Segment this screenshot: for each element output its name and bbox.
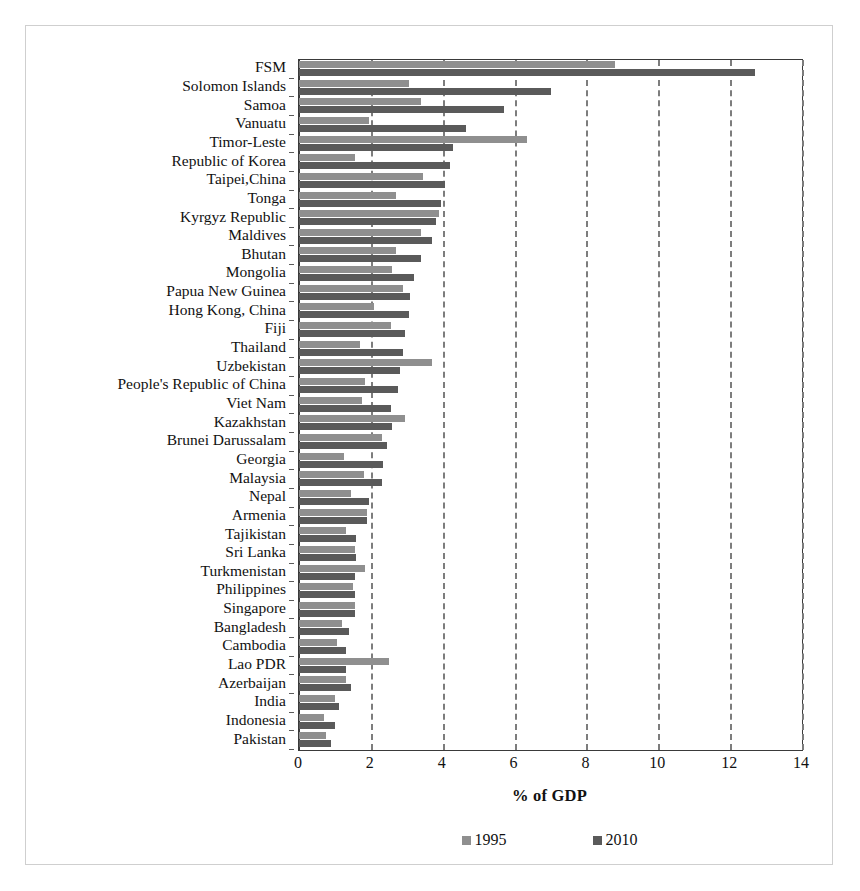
y-axis-label: Lao PDR [228,656,286,672]
bar-1995 [299,695,335,702]
y-axis-tick [289,413,294,414]
y-axis-label: Pakistan [233,731,286,747]
y-axis-label: Tajikistan [225,526,286,542]
y-axis-label: Mongolia [226,264,286,280]
bar-1995 [299,285,403,292]
y-axis-label: Papua New Guinea [166,283,286,299]
bar-2010 [299,330,405,337]
bar-1995 [299,714,324,721]
y-axis-tick [289,581,294,582]
y-axis-label: Sri Lanka [225,544,286,560]
bar-1995 [299,658,389,665]
bar-1995 [299,210,439,217]
y-axis-label: People's Republic of China [117,376,286,392]
bar-1995 [299,732,326,739]
bar-2010 [299,554,356,561]
y-axis-label: Solomon Islands [182,78,286,94]
bar-1995 [299,154,355,161]
bar-2010 [299,181,445,188]
bar-2010 [299,573,355,580]
y-axis-label: Turkmenistan [200,563,286,579]
y-axis-label: Kazakhstan [214,414,286,430]
y-axis-tick [289,730,294,731]
bar-row [299,453,802,472]
legend-swatch-icon [593,836,602,845]
bar-row [299,266,802,285]
bar-row [299,565,802,584]
bar-1995 [299,136,527,143]
bar-row [299,303,802,322]
y-axis-label: Bhutan [241,246,286,262]
bar-2010 [299,367,400,374]
y-axis-label: Republic of Korea [172,153,287,169]
y-axis-label: Thailand [231,339,286,355]
y-axis-tick [289,618,294,619]
bar-row [299,620,802,639]
x-axis-tick-label: 12 [721,754,737,772]
bar-2010 [299,349,403,356]
bar-row [299,192,802,211]
bar-2010 [299,740,331,747]
x-axis-tick-label: 8 [581,754,589,772]
bar-row [299,546,802,565]
bar-1995 [299,397,362,404]
bar-1995 [299,509,367,516]
y-axis-tick [289,227,294,228]
bar-2010 [299,610,355,617]
y-axis-label: Vanuatu [235,115,286,131]
bar-row [299,285,802,304]
bar-2010 [299,461,383,468]
y-axis-tick [289,376,294,377]
bar-row [299,397,802,416]
x-axis-tick-label: 14 [793,754,809,772]
y-axis-label: Viet Nam [226,395,286,411]
legend-label: 1995 [475,831,507,849]
bar-1995 [299,583,353,590]
y-axis-label: Nepal [249,488,286,504]
y-axis-label: Tonga [247,190,286,206]
y-axis-tick [289,712,294,713]
y-axis-tick [289,488,294,489]
bar-2010 [299,255,421,262]
y-axis-label: Singapore [223,600,286,616]
bar-row [299,173,802,192]
bar-row [299,117,802,136]
y-axis-label: Fiji [264,320,286,336]
y-axis-tick [289,283,294,284]
bar-2010 [299,237,432,244]
y-axis-tick [289,749,294,750]
bar-2010 [299,293,410,300]
bar-1995 [299,490,351,497]
y-axis-label: Georgia [236,451,286,467]
bar-row [299,210,802,229]
bar-1995 [299,247,396,254]
y-axis-tick [289,525,294,526]
bar-2010 [299,442,387,449]
bar-1995 [299,229,421,236]
bar-1995 [299,61,615,68]
y-axis-tick [289,507,294,508]
y-axis-tick [289,637,294,638]
y-axis-tick [289,395,294,396]
bar-1995 [299,192,396,199]
x-axis-tick-label: 10 [649,754,665,772]
bar-1995 [299,471,364,478]
y-axis-tick [289,563,294,564]
bar-1995 [299,303,374,310]
bar-1995 [299,565,365,572]
bar-row [299,415,802,434]
y-axis-tick [289,357,294,358]
bar-2010 [299,722,335,729]
bar-1995 [299,527,346,534]
bar-row [299,378,802,397]
bar-row [299,732,802,751]
chart-legend: 19952010 [298,831,801,849]
bar-row [299,322,802,341]
bar-row [299,658,802,677]
x-axis-tick-label: 2 [366,754,374,772]
x-axis-tick-label: 0 [294,754,302,772]
y-axis-label: Cambodia [222,637,286,653]
bar-2010 [299,88,551,95]
bar-row [299,247,802,266]
y-axis-tick [289,115,294,116]
